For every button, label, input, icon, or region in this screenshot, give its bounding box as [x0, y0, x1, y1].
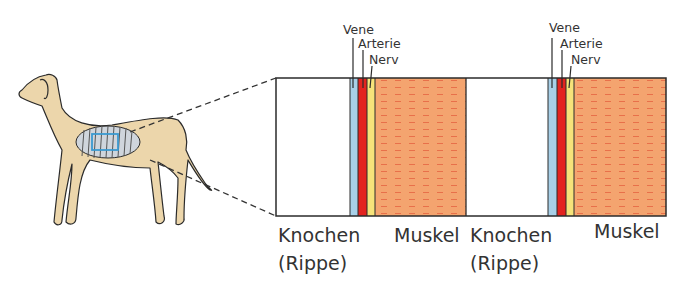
label-nerve-2: Nerv: [571, 54, 601, 67]
label-vein-1: Vene: [343, 24, 374, 37]
label-bone-1: Knochen: [278, 226, 360, 245]
label-nerve-1: Nerv: [369, 54, 399, 67]
label-bone-2: Knochen: [470, 226, 552, 245]
zoom-line-top: [130, 78, 276, 132]
label-bone-sub-2: (Rippe): [470, 254, 539, 273]
label-bone-sub-1: (Rippe): [278, 254, 347, 273]
zoom-line-bottom: [150, 160, 276, 216]
ribcage-icon: [76, 126, 140, 158]
label-muscle-2: Muskel: [594, 222, 660, 241]
label-vein-2: Vene: [549, 22, 580, 35]
label-artery-2: Arterie: [560, 38, 603, 51]
panel-2: [466, 38, 666, 216]
label-muscle-1: Muskel: [394, 226, 460, 245]
label-artery-1: Arterie: [358, 38, 401, 51]
